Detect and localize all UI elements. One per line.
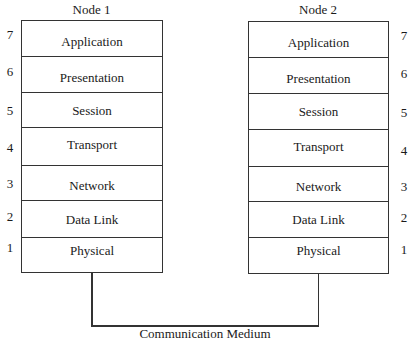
communication-medium-label: Communication Medium bbox=[105, 326, 305, 341]
medium-line-right-vertical bbox=[318, 273, 320, 327]
node-1-layer-transport: Transport bbox=[22, 127, 162, 166]
node-1-title: Node 1 bbox=[21, 2, 162, 18]
node-1-layer-network: Network bbox=[22, 165, 162, 201]
node-2-layer-number-7: 7 bbox=[397, 28, 411, 44]
node-2-layer-session: Session bbox=[249, 93, 388, 130]
node-2-layer-number-4: 4 bbox=[397, 143, 411, 159]
node-1-layer-number-6: 6 bbox=[3, 64, 17, 80]
node-2-layer-physical: Physical bbox=[249, 237, 388, 272]
node-1-layer-data-link: Data Link bbox=[22, 200, 162, 238]
node-1-layer-application: Application bbox=[22, 21, 162, 57]
node-2-layer-transport: Transport bbox=[249, 129, 388, 167]
node-2-stack: Application Presentation Session Transpo… bbox=[248, 21, 389, 274]
node-2-layer-data-link: Data Link bbox=[249, 201, 388, 238]
node-2-layer-number-2: 2 bbox=[397, 210, 411, 226]
node-1-stack: Application Presentation Session Transpo… bbox=[21, 20, 163, 273]
node-2-layer-network: Network bbox=[249, 166, 388, 202]
node-1-layer-physical: Physical bbox=[22, 237, 162, 271]
node-1-layer-number-5: 5 bbox=[3, 103, 17, 119]
node-2-layer-number-3: 3 bbox=[397, 179, 411, 195]
node-1-layer-number-7: 7 bbox=[3, 27, 17, 43]
node-2-layer-number-1: 1 bbox=[397, 242, 411, 258]
node-2-layer-number-5: 5 bbox=[397, 105, 411, 121]
node-1-layer-number-1: 1 bbox=[3, 240, 17, 256]
medium-line-left-vertical bbox=[91, 272, 93, 326]
node-2-title: Node 2 bbox=[248, 2, 388, 18]
node-1-layer-presentation: Presentation bbox=[22, 56, 162, 93]
node-2-layer-number-6: 6 bbox=[397, 66, 411, 82]
node-1-layer-session: Session bbox=[22, 92, 162, 128]
node-1-layer-number-4: 4 bbox=[3, 140, 17, 156]
node-2-layer-presentation: Presentation bbox=[249, 57, 388, 94]
node-1-layer-number-2: 2 bbox=[3, 209, 17, 225]
node-2-layer-application: Application bbox=[249, 22, 388, 58]
node-1-layer-number-3: 3 bbox=[3, 176, 17, 192]
